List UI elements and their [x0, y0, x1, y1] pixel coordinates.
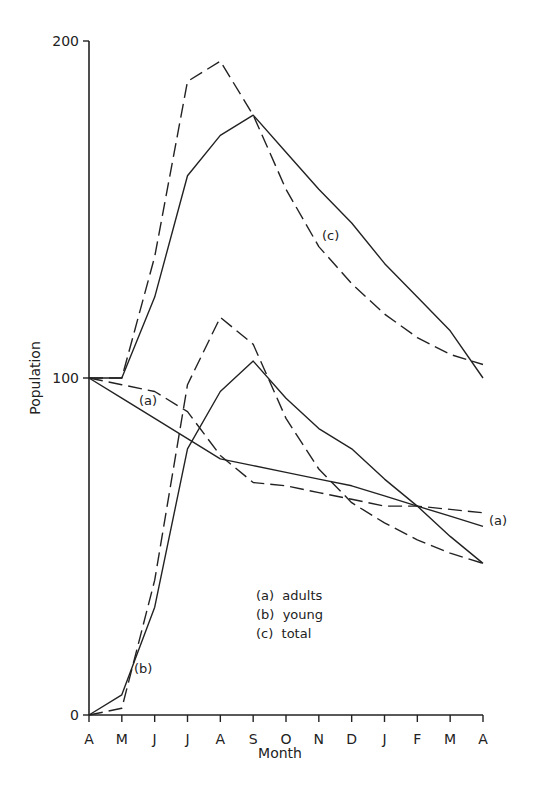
series-line — [89, 61, 483, 378]
legend-entry-adults: (a) adults — [256, 588, 323, 603]
y-tick-label: 200 — [52, 33, 79, 49]
x-tick-label: A — [84, 731, 94, 747]
y-tick-labels: 0100200 — [52, 33, 79, 723]
series-line — [89, 115, 483, 378]
y-tick-label: 100 — [52, 370, 79, 386]
x-tick-label: S — [249, 731, 258, 747]
annotation-c: (c) — [322, 228, 339, 243]
series-line — [89, 317, 483, 715]
legend-entry-young: (b) young — [256, 607, 323, 622]
annotation-a-left: (a) — [139, 393, 157, 408]
legend: (a) adults (b) young (c) total — [256, 588, 323, 641]
population-chart: 0100200 AMJJASONDJFMA Month Population (… — [0, 0, 535, 787]
x-tick-label: M — [444, 731, 456, 747]
legend-entry-total: (c) total — [256, 626, 311, 641]
x-tick-label: D — [346, 731, 357, 747]
annotation-a-right: (a) — [489, 513, 507, 528]
x-tick-label: M — [116, 731, 128, 747]
x-tick-label: J — [381, 731, 386, 747]
annotation-b: (b) — [134, 661, 152, 676]
y-axis-label: Population — [27, 341, 43, 415]
x-tick-label: A — [478, 731, 488, 747]
x-tick-label: J — [152, 731, 157, 747]
x-tick-label: J — [184, 731, 189, 747]
y-tick-label: 0 — [70, 707, 79, 723]
x-tick-label: A — [216, 731, 226, 747]
x-axis-label: Month — [258, 745, 302, 761]
x-tick-label: F — [413, 731, 421, 747]
x-tick-label: N — [314, 731, 324, 747]
